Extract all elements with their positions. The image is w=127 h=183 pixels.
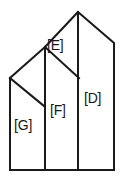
region-label-f: [F] (50, 103, 66, 117)
diagonal-line-g-roof (10, 78, 44, 106)
house-partition-svg (0, 0, 127, 183)
region-label-d: [D] (84, 91, 101, 105)
region-label-g: [G] (14, 118, 32, 132)
region-label-e: [E] (47, 38, 64, 52)
figure-container: [E] [F] [D] [G] (0, 0, 127, 183)
